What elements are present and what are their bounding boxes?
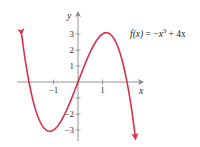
x-tick-label: 1: [100, 85, 105, 95]
function-label: f(x) = −x3 + 4x: [130, 27, 186, 40]
function-rest: + 4x: [166, 29, 186, 39]
x-axis-label: x: [138, 85, 144, 96]
y-tick-label: 1: [70, 61, 75, 71]
y-axis-label: y: [66, 10, 72, 21]
chart-canvas: −11−3−2123 y x f(x) = −x3 + 4x: [0, 0, 200, 147]
y-tick-label: −3: [64, 125, 74, 135]
function-eq: = −: [143, 29, 158, 39]
y-tick-label: 2: [70, 45, 75, 55]
x-tick-label: −1: [49, 85, 59, 95]
function-lhs: f(x): [130, 29, 143, 40]
y-tick-label: 3: [70, 29, 75, 39]
function-curve: [22, 33, 136, 140]
